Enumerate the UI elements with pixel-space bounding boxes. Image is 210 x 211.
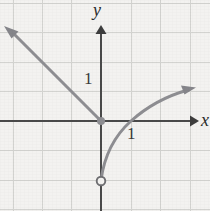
y-axis-label: y xyxy=(93,1,101,19)
y-axis-arrowhead-icon xyxy=(96,25,107,34)
x-axis-arrowhead-icon xyxy=(190,116,199,127)
graph-canvas xyxy=(0,0,210,211)
graph-figure: y x 1 1 xyxy=(0,0,210,211)
right-curve-path xyxy=(101,90,188,180)
x-axis-label: x xyxy=(201,111,209,129)
x-tick-label-one: 1 xyxy=(127,125,136,142)
hole-open-circle-marker xyxy=(97,177,106,186)
right-curve-arrowhead-icon xyxy=(181,86,196,95)
right-curve-branch xyxy=(101,86,196,181)
origin-closed-dot-marker xyxy=(97,117,105,125)
y-tick-label-one: 1 xyxy=(84,70,93,87)
